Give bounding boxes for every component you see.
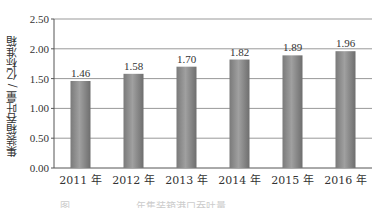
bar-value-label: 1.96 (336, 37, 356, 49)
y-tick-label: 0.50 (30, 132, 50, 144)
bar-value-label: 1.58 (124, 60, 144, 72)
x-tick-label: 2014 年 (218, 173, 261, 187)
x-tick-label: 2011 年 (59, 173, 102, 187)
y-tick-label: 0.00 (30, 162, 50, 174)
bar (230, 60, 250, 168)
bar-value-label: 1.46 (71, 67, 91, 79)
bar (124, 74, 144, 168)
x-tick-label: 2013 年 (165, 173, 208, 187)
bar-value-label: 1.89 (283, 41, 303, 53)
bar-value-label: 1.82 (230, 46, 249, 58)
y-tick-label: 2.00 (30, 43, 50, 55)
y-tick-label: 1.50 (30, 73, 50, 85)
bar-chart: 0.000.501.001.502.002.50 1.462011 年1.582… (0, 0, 382, 208)
y-tick-label: 2.50 (30, 13, 50, 25)
bar (71, 81, 91, 168)
bar (177, 67, 197, 168)
x-tick-label: 2015 年 (271, 173, 314, 187)
bar-value-label: 1.70 (177, 53, 197, 65)
y-axis-label: 集装箱吞吐量 / 亿标准箱 (5, 22, 19, 172)
bar (283, 55, 303, 168)
x-tick-label: 2012 年 (112, 173, 155, 187)
chart-canvas: 0.000.501.001.502.002.50 1.462011 年1.582… (0, 0, 382, 208)
figure-caption: 图 ……………… 年集装箱港口吞吐量…… (60, 198, 246, 208)
y-tick-label: 1.00 (30, 102, 50, 114)
x-tick-label: 2016 年 (324, 173, 367, 187)
bar (336, 51, 356, 168)
